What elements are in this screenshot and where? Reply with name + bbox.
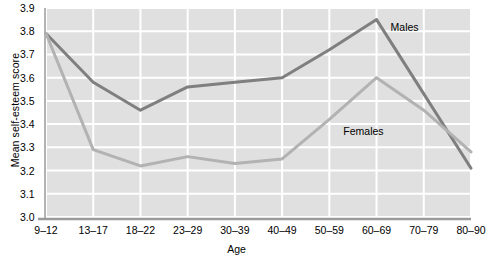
series-annotation-females: Females [343,125,383,137]
x-tick-label: 70–79 [409,224,438,236]
x-tick-label: 9–12 [34,224,57,236]
y-axis-title: Mean self-esteem score [9,25,21,195]
x-tick-label: 18–22 [126,224,155,236]
x-tick-label: 60–69 [362,224,391,236]
x-axis-title: Age [0,243,473,255]
series-annotation-males: Males [391,21,419,33]
x-tick-label: 13–17 [79,224,108,236]
x-tick-label: 50–59 [315,224,344,236]
x-tick-label: 80–90 [456,224,485,236]
x-tick-label: 40–49 [268,224,297,236]
x-tick-label: 30–39 [220,224,249,236]
x-tick-label: 23–29 [173,224,202,236]
